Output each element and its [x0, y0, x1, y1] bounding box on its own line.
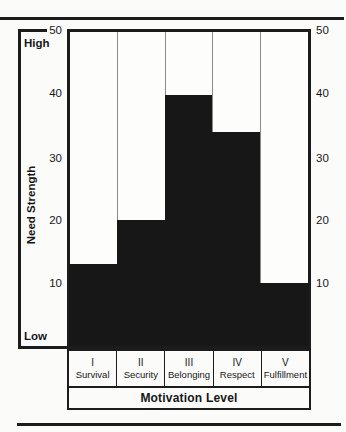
- category-numeral: II: [138, 357, 144, 369]
- need-strength-figure: High Low Need Strength 50 40 30 20 10 50…: [0, 0, 346, 432]
- y-tick-left-50: 50: [36, 23, 62, 37]
- bottom-rule: [17, 423, 341, 426]
- category-numeral: V: [282, 357, 289, 369]
- x-axis-title: Motivation Level: [140, 391, 237, 405]
- category-label: Fulfillment: [264, 369, 307, 381]
- y-axis-title: Need Strength: [24, 150, 38, 260]
- plot-columns: [70, 32, 308, 346]
- y-tick-left-30: 30: [36, 151, 62, 165]
- y-axis-low-label: Low: [24, 330, 47, 342]
- bar-belonging: [165, 95, 214, 346]
- category-label: Survival: [76, 369, 110, 381]
- y-tick-right-50: 50: [316, 23, 342, 37]
- y-tick-left-10: 10: [36, 276, 62, 290]
- y-tick-right-10: 10: [316, 276, 342, 290]
- category-belonging: III Belonging: [164, 351, 212, 386]
- y-tick-right-20: 20: [316, 213, 342, 227]
- bar-security: [117, 220, 166, 346]
- category-security: II Security: [116, 351, 164, 386]
- plot-area: [67, 29, 311, 349]
- y-tick-left-40: 40: [36, 86, 62, 100]
- column-security: [117, 32, 165, 346]
- column-survival: [70, 32, 117, 346]
- y-axis-high-label: High: [24, 37, 50, 49]
- category-respect: IV Respect: [213, 351, 261, 386]
- column-respect: [212, 32, 260, 346]
- category-label: Respect: [220, 369, 255, 381]
- category-label: Security: [124, 369, 158, 381]
- column-fulfillment: [260, 32, 308, 346]
- category-fulfillment: V Fulfillment: [261, 351, 309, 386]
- category-label: Belonging: [168, 369, 210, 381]
- bar-survival: [69, 264, 118, 346]
- column-belonging: [165, 32, 213, 346]
- category-numeral: III: [185, 357, 193, 369]
- x-axis-title-box: Motivation Level: [67, 386, 311, 410]
- y-tick-left-20: 20: [36, 213, 62, 227]
- y-tick-right-30: 30: [316, 151, 342, 165]
- top-rule: [0, 17, 344, 20]
- x-category-row: I Survival II Security III Belonging IV …: [67, 349, 311, 388]
- y-tick-right-40: 40: [316, 86, 342, 100]
- category-numeral: I: [91, 357, 94, 369]
- category-survival: I Survival: [69, 351, 116, 386]
- bar-fulfillment: [260, 283, 309, 346]
- bar-respect: [212, 132, 261, 346]
- category-numeral: IV: [232, 357, 241, 369]
